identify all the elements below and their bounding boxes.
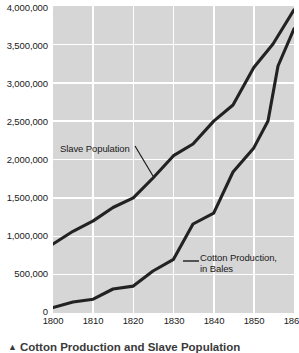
y-axis-tick-label: 500,000: [0, 269, 48, 279]
series-label-slave-population: Slave Population: [60, 143, 130, 154]
leader-line-slave-population: [135, 146, 153, 176]
y-axis-tick-label: 2,000,000: [0, 155, 48, 165]
series-label-cotton-production: Cotton Production, in Bales: [200, 252, 277, 274]
y-axis-tick-label: 3,000,000: [0, 79, 48, 89]
y-axis-tick-label: 1,500,000: [0, 193, 48, 203]
caption-triangle-icon: ▲: [8, 342, 17, 352]
series-label-cotton-production-line1: Cotton Production,: [200, 252, 277, 263]
x-axis-tick-label: 1820: [110, 316, 156, 326]
caption-text: Cotton Production and Slave Population: [20, 341, 240, 353]
chart-figure: 4,000,000 3,500,000 3,000,000 2,500,000 …: [0, 0, 299, 353]
y-axis-tick-label: 2,500,000: [0, 117, 48, 127]
y-axis-tick-label: 3,500,000: [0, 41, 48, 51]
figure-caption: ▲Cotton Production and Slave Population: [8, 341, 299, 353]
y-axis-tick-label: 1,000,000: [0, 231, 48, 241]
x-axis-tick-label: 1860: [271, 316, 299, 326]
series-label-cotton-production-line2: in Bales: [200, 263, 277, 274]
y-axis-tick-label: 4,000,000: [0, 3, 48, 13]
